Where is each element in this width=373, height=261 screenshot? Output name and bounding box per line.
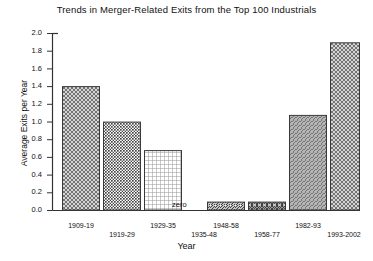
y-tick-label: 0.4 xyxy=(16,171,42,179)
x-axis-title: Year xyxy=(0,241,373,251)
x-tick-label-1982-93: 1982-93 xyxy=(278,222,338,229)
x-tick-label-1919-29: 1919-29 xyxy=(92,231,152,238)
y-tick-label: 0.8 xyxy=(16,135,42,143)
x-tick-label-1929-35: 1929-35 xyxy=(133,222,193,229)
y-tick-label: 0.6 xyxy=(16,153,42,161)
x-tick-label-1909-19: 1909-19 xyxy=(51,222,111,229)
y-tick-label: 0.2 xyxy=(16,188,42,196)
x-tick-label-1948-58: 1948-58 xyxy=(196,222,256,229)
y-tick-label: 1.2 xyxy=(16,100,42,108)
y-tick-label: 1.6 xyxy=(16,65,42,73)
y-tick-label: 0.0 xyxy=(16,206,42,214)
y-tick-label: 1.8 xyxy=(16,47,42,55)
zero-annotation: zero xyxy=(172,200,187,209)
chart-title: Trends in Merger-Related Exits from the … xyxy=(0,4,373,15)
x-tick-label-1993-2002: 1993-2002 xyxy=(314,231,373,238)
x-tick-label-1958-77: 1958-77 xyxy=(237,231,297,238)
y-tick-label: 1.0 xyxy=(16,118,42,126)
chart-container: Trends in Merger-Related Exits from the … xyxy=(0,0,373,261)
y-tick-label: 1.4 xyxy=(16,82,42,90)
y-tick-label: 2.0 xyxy=(16,29,42,37)
x-tick-label-1935-48: 1935-48 xyxy=(174,231,234,238)
